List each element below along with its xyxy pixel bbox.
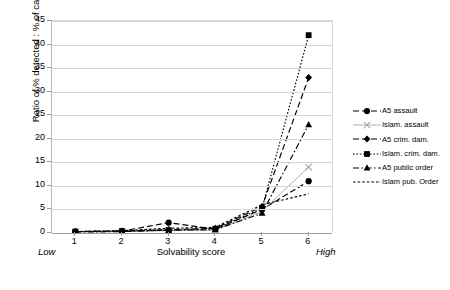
legend-symbol-circle-icon	[352, 105, 382, 117]
y-tick-mark	[47, 67, 51, 68]
x-axis-low-label: Low	[38, 246, 55, 257]
y-tick-label: 10	[19, 180, 45, 189]
x-tick-mark	[74, 232, 75, 236]
data-point	[305, 74, 312, 81]
legend-label: Islam. assault	[382, 121, 428, 129]
series-1	[72, 164, 312, 233]
x-tick-mark	[168, 232, 169, 236]
x-tick-label: 4	[204, 237, 224, 246]
chart-legend: A5 assaultIslam. assaultA5 crim. dam.Isl…	[352, 104, 450, 189]
legend-item-0[interactable]: A5 assault	[352, 104, 450, 118]
y-tick-label: 35	[19, 62, 45, 71]
series-line	[75, 167, 308, 232]
legend-item-1[interactable]: Islam. assault	[352, 118, 450, 132]
x-tick-label: 2	[111, 237, 131, 246]
y-tick-label: 15	[19, 156, 45, 165]
data-point	[305, 164, 311, 170]
gridline	[52, 21, 332, 22]
series-4	[72, 121, 312, 233]
y-tick-label: 20	[19, 133, 45, 142]
y-tick-label: 30	[19, 86, 45, 95]
x-tick-label: 3	[158, 237, 178, 246]
x-tick-mark	[121, 232, 122, 236]
legend-label: Islam pub. Order	[382, 178, 439, 186]
y-tick-mark	[47, 44, 51, 45]
plot-area	[51, 20, 333, 233]
legend-item-2[interactable]: A5 crim. dam.	[352, 132, 450, 146]
legend-item-4[interactable]: A5 public order	[352, 161, 450, 175]
x-axis-high-label: High	[316, 246, 336, 257]
y-tick-mark	[47, 232, 51, 233]
plot-svg	[52, 21, 332, 233]
y-tick-label: 0	[19, 227, 45, 236]
y-tick-label: 40	[19, 39, 45, 48]
gridline	[52, 139, 332, 140]
legend-symbol-diamond-icon	[352, 133, 382, 145]
y-tick-mark	[47, 20, 51, 21]
gridline	[52, 68, 332, 69]
chart-container: Ratio of % detected : % of cases 0510152…	[0, 0, 450, 290]
y-tick-label: 45	[19, 15, 45, 24]
gridline	[52, 233, 332, 234]
legend-label: A5 assault	[382, 107, 417, 115]
y-tick-mark	[47, 138, 51, 139]
x-axis-title: Solvability score	[51, 246, 331, 257]
gridline	[52, 92, 332, 93]
y-tick-mark	[47, 161, 51, 162]
legend-item-3[interactable]: Islam. crim. dam.	[352, 147, 450, 161]
data-point	[306, 178, 312, 184]
data-point	[306, 32, 312, 38]
y-tick-label: 5	[19, 203, 45, 212]
y-tick-mark	[47, 114, 51, 115]
x-tick-label: 1	[64, 237, 84, 246]
legend-label: Islam. crim. dam.	[382, 150, 440, 158]
y-tick-mark	[47, 91, 51, 92]
y-tick-label: 25	[19, 109, 45, 118]
gridline	[52, 209, 332, 210]
legend-label: A5 public order	[382, 164, 433, 172]
legend-label: A5 crim. dam.	[382, 136, 429, 144]
legend-symbol-none-icon	[352, 176, 382, 188]
gridline	[52, 162, 332, 163]
data-point	[305, 121, 312, 127]
legend-item-5[interactable]: Islam pub. Order	[352, 175, 450, 189]
gridline	[52, 45, 332, 46]
legend-symbol-triangle-icon	[352, 162, 382, 174]
x-tick-label: 6	[298, 237, 318, 246]
x-tick-mark	[261, 232, 262, 236]
legend-symbol-cross-icon	[352, 119, 382, 131]
x-tick-mark	[308, 232, 309, 236]
legend-symbol-square-icon	[352, 148, 382, 160]
y-tick-mark	[47, 185, 51, 186]
series-3	[72, 32, 311, 233]
gridline	[52, 186, 332, 187]
x-tick-label: 5	[251, 237, 271, 246]
series-line	[75, 181, 308, 231]
x-tick-mark	[214, 232, 215, 236]
data-point	[166, 220, 172, 226]
gridline	[52, 115, 332, 116]
series-line	[75, 125, 308, 232]
y-tick-mark	[47, 208, 51, 209]
